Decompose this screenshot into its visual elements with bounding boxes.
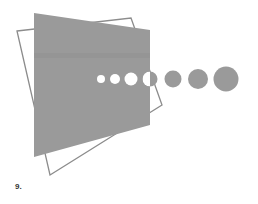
circle-gray bbox=[188, 69, 208, 89]
circle-white bbox=[110, 74, 120, 84]
diagram-canvas bbox=[0, 0, 258, 204]
circle-white bbox=[97, 75, 105, 83]
circle-gray bbox=[214, 67, 239, 92]
circle-gray bbox=[165, 71, 182, 88]
panel-label: 9. bbox=[15, 182, 22, 191]
circle-white bbox=[125, 73, 138, 86]
horizontal-band bbox=[34, 53, 150, 58]
diagram-figure: 9. bbox=[0, 0, 258, 204]
